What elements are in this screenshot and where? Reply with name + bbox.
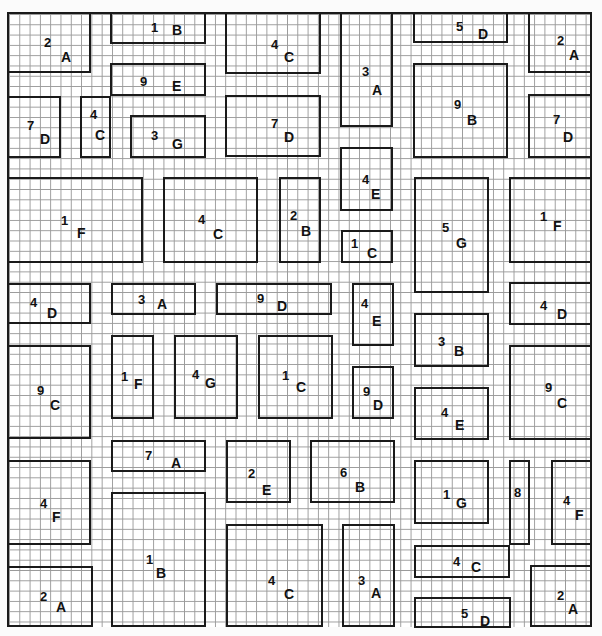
city-block: [111, 492, 206, 627]
block-number-label: 7: [553, 113, 560, 126]
block-letter-label: D: [277, 299, 287, 313]
city-block: [414, 313, 489, 367]
block-number-label: 2: [557, 34, 564, 47]
city-block: [509, 177, 592, 263]
city-block: [130, 115, 206, 158]
block-number-label: 3: [358, 574, 365, 587]
block-number-label: 4: [30, 296, 37, 309]
block-letter-label: A: [157, 297, 167, 311]
block-number-label: 2: [557, 589, 564, 602]
block-number-label: 4: [90, 108, 97, 121]
block-letter-label: B: [355, 480, 365, 494]
city-block: [528, 94, 592, 158]
city-block: [279, 177, 321, 263]
block-number-label: 8: [514, 486, 521, 499]
block-number-label: 5: [442, 221, 449, 234]
block-number-label: 1: [351, 237, 358, 250]
block-letter-label: F: [52, 510, 61, 524]
block-number-label: 4: [563, 494, 570, 507]
block-number-label: 7: [145, 449, 152, 462]
block-letter-label: C: [50, 398, 60, 412]
city-block: [163, 177, 258, 263]
block-letter-label: A: [371, 586, 381, 600]
block-number-label: 3: [438, 335, 445, 348]
block-number-label: 7: [27, 119, 34, 132]
city-block: [414, 177, 489, 293]
block-letter-label: E: [172, 79, 181, 93]
city-block: [509, 460, 530, 545]
block-letter-label: D: [478, 27, 488, 41]
city-block: [551, 460, 592, 545]
block-letter-label: F: [553, 219, 562, 233]
block-number-label: 4: [453, 555, 460, 568]
block-letter-label: E: [372, 314, 381, 328]
block-letter-label: B: [172, 23, 182, 37]
block-letter-label: A: [569, 48, 579, 62]
city-block: [111, 283, 196, 315]
block-letter-label: D: [47, 306, 57, 320]
block-number-label: 7: [271, 117, 278, 130]
block-letter-label: B: [156, 566, 166, 580]
block-letter-label: D: [40, 132, 50, 146]
block-number-label: 1: [61, 214, 68, 227]
city-block: [7, 460, 91, 545]
block-number-label: 9: [454, 98, 461, 111]
city-block: [7, 566, 93, 627]
block-number-label: 1: [540, 210, 547, 223]
block-number-label: 4: [361, 297, 368, 310]
block-letter-label: B: [454, 344, 464, 358]
block-number-label: 6: [340, 466, 347, 479]
block-number-label: 3: [138, 293, 145, 306]
city-block: [509, 282, 592, 325]
block-letter-label: G: [456, 496, 467, 510]
city-block-grid-diagram: 2A1B4C3A5D2A9E7D4C3G7D9B7D4E1F4C2B1C5G1F…: [0, 0, 602, 636]
block-letter-label: E: [262, 483, 271, 497]
block-letter-label: C: [471, 560, 481, 574]
city-block: [258, 335, 333, 419]
block-number-label: 2: [248, 467, 255, 480]
block-letter-label: A: [61, 50, 71, 64]
city-block: [310, 440, 395, 503]
block-number-label: 4: [540, 299, 547, 312]
block-number-label: 2: [40, 590, 47, 603]
block-letter-label: B: [301, 224, 311, 238]
block-number-label: 9: [363, 385, 370, 398]
block-number-label: 9: [37, 384, 44, 397]
city-block: [342, 524, 395, 627]
city-block: [7, 177, 143, 263]
block-letter-label: C: [95, 128, 105, 142]
block-letter-label: D: [563, 130, 573, 144]
block-letter-label: C: [296, 380, 306, 394]
block-number-label: 4: [198, 213, 205, 226]
city-block: [111, 440, 206, 472]
block-number-label: 4: [40, 497, 47, 510]
block-letter-label: C: [284, 50, 294, 64]
city-block: [7, 345, 91, 439]
block-letter-label: G: [172, 137, 183, 151]
block-number-label: 5: [456, 20, 463, 33]
block-number-label: 9: [140, 75, 147, 88]
block-letter-label: D: [373, 398, 383, 412]
city-block: [226, 440, 291, 503]
block-letter-label: A: [171, 456, 181, 470]
block-number-label: 1: [151, 21, 158, 34]
block-letter-label: A: [372, 83, 382, 97]
block-number-label: 1: [121, 370, 128, 383]
block-letter-label: D: [284, 130, 294, 144]
city-block: [110, 63, 206, 96]
block-number-label: 1: [282, 369, 289, 382]
block-letter-label: C: [557, 396, 567, 410]
block-letter-label: G: [456, 236, 467, 250]
block-number-label: 4: [192, 368, 199, 381]
block-letter-label: C: [367, 246, 377, 260]
block-letter-label: G: [205, 376, 216, 390]
block-number-label: 2: [290, 209, 297, 222]
block-letter-label: A: [56, 600, 66, 614]
block-number-label: 2: [44, 36, 51, 49]
block-number-label: 3: [151, 129, 158, 142]
block-number-label: 9: [257, 292, 264, 305]
city-block: [111, 335, 154, 419]
block-letter-label: F: [77, 226, 86, 240]
city-block: [414, 545, 510, 578]
city-block: [216, 283, 332, 315]
